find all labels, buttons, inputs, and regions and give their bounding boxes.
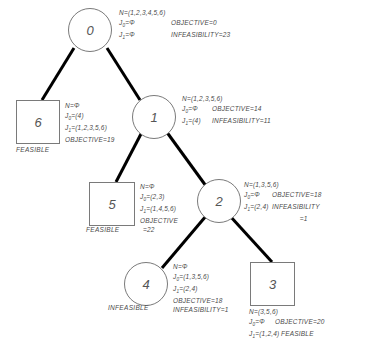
node-4[interactable]: 4 [124,262,168,306]
edge-0-6 [42,48,74,100]
node-6-J0-row: J0=(4) [65,111,115,123]
node-0-annotation: N=(1,2,3,4,5,6) J0=ΦOBJECTIVE=0 J1=ΦINFE… [119,8,230,42]
node-1-label: 1 [150,110,157,125]
node-4-J1-row: J1=(2,4) [173,284,229,296]
node-3-J1-row: J1=(1,2,4)FEASIBLE [249,329,325,341]
node-4-objective: OBJECTIVE=18 [173,296,229,306]
node-4-J0-val: =(1,3,5,6) [179,273,209,280]
node-1-J0-row: J0=ΦOBJECTIVE=14 [182,104,271,116]
node-0[interactable]: 0 [68,8,112,52]
node-2-N: N=(1,3,5,6) [244,180,322,190]
node-0-J1-row: J1=ΦINFEASIBILITY=23 [119,30,230,42]
node-3-label: 3 [269,277,276,292]
node-2-J1-row: J1=(2,4)INFEASIBILITY [244,202,322,214]
node-5-annotation: N=Φ J0=(2,3) J1=(1,4,5,6) OBJECTIVE [140,182,178,225]
node-6[interactable]: 6 [16,100,60,144]
node-0-infeasibility: INFEASIBILITY=23 [171,31,230,38]
node-1-annotation: N=(1,2,3,5,6) J0=ΦOBJECTIVE=14 J1=(4)INF… [182,94,271,128]
node-5-J0-row: J0=(2,3) [140,192,178,204]
node-2[interactable]: 2 [197,179,241,223]
node-3-objective: OBJECTIVE=20 [275,318,325,325]
edge-1-5 [116,132,142,182]
node-6-annotation: N=Φ J0=(4) J1=(1,2,3,5,6) OBJECTIVE=19 [65,101,115,144]
node-0-J0-val: =Φ [125,19,135,26]
branch-and-bound-diagram: 0 N=(1,2,3,4,5,6) J0=ΦOBJECTIVE=0 J1=ΦIN… [0,0,367,361]
node-3-J1-val: =(1,2,4) [255,330,279,337]
edge-0-1 [107,48,140,100]
node-2-J0-val: =Φ [250,191,260,198]
node-5-N: N=Φ [140,182,178,192]
node-0-J1-val: =Φ [125,31,135,38]
node-1-objective: OBJECTIVE=14 [212,105,262,112]
node-6-J1-val: =(1,2,3,5,6) [71,124,107,131]
node-5-objective: OBJECTIVE [140,216,178,226]
node-1-J1-val: =(4) [188,117,201,124]
node-6-label: 6 [34,115,41,130]
node-5-objective-value: =22 [143,225,155,235]
node-0-label: 0 [86,23,93,38]
node-6-objective: OBJECTIVE=19 [65,135,115,145]
node-6-J0-val: =(4) [71,112,84,119]
node-4-annotation: N=Φ J0=(1,3,5,6) J1=(2,4) OBJECTIVE=18 I… [173,262,229,315]
node-4-status: INFEASIBLE [108,304,149,311]
node-4-J1-val: =(2,4) [179,285,197,292]
node-2-infeasibility-value: =1 [244,214,322,224]
node-2-J0-row: J0=ΦOBJECTIVE=18 [244,190,322,202]
node-0-N: N=(1,2,3,4,5,6) [119,8,230,18]
node-4-J0-row: J0=(1,3,5,6) [173,272,229,284]
node-1-infeasibility: INFEASIBILITY=11 [212,117,271,124]
node-5-J1-row: J1=(1,4,5,6) [140,204,178,216]
node-5-label: 5 [108,197,115,212]
edge-1-2 [166,131,206,186]
node-4-label: 4 [142,277,149,292]
node-2-objective: OBJECTIVE=18 [272,191,322,198]
node-3-status: FEASIBLE [281,330,314,337]
node-5-J0-val: =(2,3) [146,193,164,200]
node-6-J1-row: J1=(1,2,3,5,6) [65,123,115,135]
node-2-label: 2 [215,194,222,209]
node-3-J0-val: =Φ [255,318,265,325]
node-6-status: FEASIBLE [16,146,49,153]
node-1[interactable]: 1 [132,95,176,139]
node-1-N: N=(1,2,3,5,6) [182,94,271,104]
node-3-annotation: N=(3,5,6) J0=ΦOBJECTIVE=20 J1=(1,2,4)FEA… [249,307,325,341]
node-3-J0-row: J0=ΦOBJECTIVE=20 [249,317,325,329]
node-5-J1-val: =(1,4,5,6) [146,205,176,212]
node-5[interactable]: 5 [89,182,135,226]
node-3-N: N=(3,5,6) [249,307,325,317]
node-1-J1-row: J1=(4)INFEASIBILITY=11 [182,116,271,128]
node-2-infeasibility: INFEASIBILITY [272,203,320,210]
node-0-objective: OBJECTIVE=0 [171,19,217,26]
node-5-status: FEASIBLE [86,226,119,233]
node-3[interactable]: 3 [250,262,295,306]
node-0-J0-row: J0=ΦOBJECTIVE=0 [119,18,230,30]
node-2-annotation: N=(1,3,5,6) J0=ΦOBJECTIVE=18 J1=(2,4)INF… [244,180,322,223]
node-4-N: N=Φ [173,262,229,272]
node-2-J1-val: =(2,4) [250,203,268,210]
node-4-infeasibility: INFEASIBILITY=1 [173,305,229,315]
node-1-J0-val: =Φ [188,105,198,112]
node-6-N: N=Φ [65,101,115,111]
